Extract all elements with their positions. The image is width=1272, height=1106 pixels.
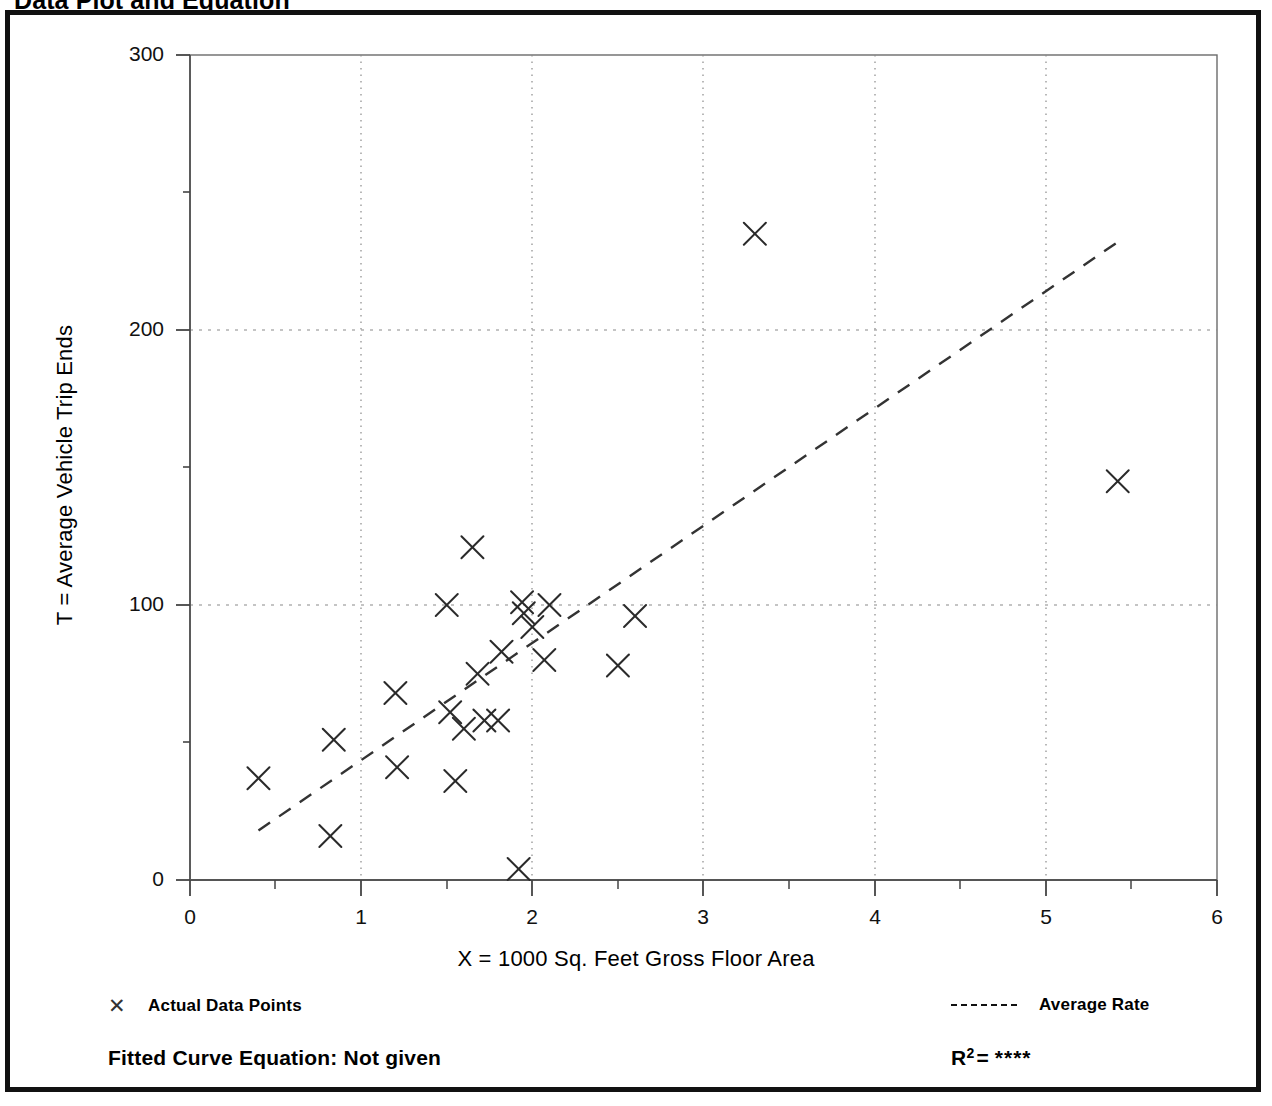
y-axis-minor-ticks — [183, 192, 190, 742]
y-axis-title: T = Average Vehicle Trip Ends — [52, 325, 77, 625]
y-tick-label-300: 300 — [104, 42, 164, 66]
x-tick-label-1: 1 — [341, 905, 381, 929]
x-tick-label-2: 2 — [512, 905, 552, 929]
equation-row: Fitted Curve Equation: Not given R2 = **… — [0, 1046, 1272, 1086]
legend-label-average-rate: Average Rate — [1039, 995, 1149, 1015]
r-squared-block: R2 = **** — [951, 1046, 1032, 1070]
scatter-chart: 0 100 200 300 0 1 2 3 4 5 6 T = Average … — [0, 0, 1272, 1106]
y-tick-label-100: 100 — [104, 592, 164, 616]
dashed-line-icon — [951, 1004, 1017, 1006]
fitted-curve-equation: Fitted Curve Equation: Not given — [108, 1046, 441, 1070]
y-axis-title-wrap: T = Average Vehicle Trip Ends — [52, 235, 78, 715]
r-squared-symbol: R — [951, 1046, 966, 1070]
x-tick-label-3: 3 — [683, 905, 723, 929]
x-axis-title: X = 1000 Sq. Feet Gross Floor Area — [0, 946, 1272, 972]
x-axis-major-ticks — [190, 880, 1217, 896]
y-tick-label-200: 200 — [104, 317, 164, 341]
y-tick-label-0: 0 — [104, 867, 164, 891]
legend-label-data-points: Actual Data Points — [148, 996, 302, 1016]
r-squared-value: **** — [995, 1046, 1032, 1070]
r-squared-exponent: 2 — [966, 1045, 974, 1061]
legend-item-average-rate: Average Rate — [951, 995, 1149, 1015]
r-squared-equals: = — [976, 1046, 988, 1070]
x-tick-label-0: 0 — [170, 905, 210, 929]
x-tick-label-4: 4 — [855, 905, 895, 929]
x-tick-label-5: 5 — [1026, 905, 1066, 929]
legend-item-data-points: ✕ Actual Data Points — [108, 995, 302, 1016]
chart-canvas — [0, 0, 1272, 1106]
cross-marker-icon: ✕ — [108, 995, 126, 1016]
x-tick-label-6: 6 — [1197, 905, 1237, 929]
